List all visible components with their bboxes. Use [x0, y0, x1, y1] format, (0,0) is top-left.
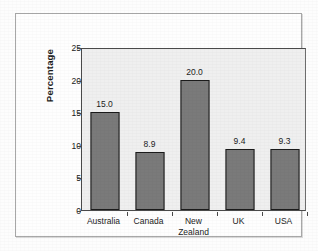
y-tick-mark [77, 211, 81, 212]
bar [270, 149, 299, 210]
bar [90, 112, 119, 210]
bar-chart-figure: Percentage 0510152025 15.08.920.09.49.3 … [0, 0, 318, 251]
bar [225, 149, 254, 210]
bar [180, 80, 209, 210]
bar-value-label: 9.3 [279, 136, 291, 146]
plot-area: 15.08.920.09.49.3 [81, 48, 306, 211]
x-tick-mark [307, 212, 308, 216]
bar-value-label: 15.0 [96, 99, 113, 109]
bar-group: 9.4 [217, 49, 262, 210]
bar-group: 20.0 [172, 49, 217, 210]
bar-group: 9.3 [262, 49, 307, 210]
x-axis-label: Australia [81, 216, 126, 227]
x-axis-label: UK [216, 216, 261, 227]
x-axis-labels: AustraliaCanadaNew ZealandUKUSA [81, 216, 306, 250]
x-axis-label: Canada [126, 216, 171, 227]
bar-group: 15.0 [82, 49, 127, 210]
plot-inner: 15.08.920.09.49.3 [82, 49, 305, 210]
bar [135, 152, 164, 210]
bar-value-label: 8.9 [144, 139, 156, 149]
x-axis-label: USA [261, 216, 306, 227]
bar-value-label: 20.0 [186, 67, 203, 77]
x-axis-label: New Zealand [171, 216, 216, 238]
y-axis-ticks: 0510152025 [51, 48, 81, 211]
chart-outer-frame: Percentage 0510152025 15.08.920.09.49.3 … [15, 13, 302, 237]
bar-group: 8.9 [127, 49, 172, 210]
bar-value-label: 9.4 [234, 136, 246, 146]
